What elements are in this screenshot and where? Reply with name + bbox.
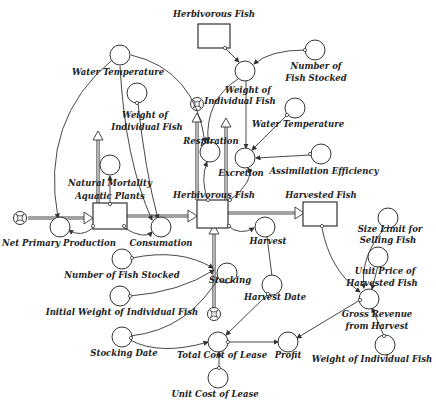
label-stocking-date: Stocking Date (90, 348, 158, 358)
stock-herbivorous-fish[interactable] (197, 200, 228, 228)
label-herbivorous-fish: Herbivorous Fish (172, 190, 255, 200)
converter-unit-price[interactable] (368, 247, 388, 267)
label-natural-mortality: Natural Mortality (67, 178, 153, 188)
converter-natural-mortality[interactable] (100, 155, 120, 175)
label-unit-price-1: Unit Price of (355, 266, 417, 276)
label-harvest: Harvest (248, 236, 286, 246)
converter-weight-individual-fish-top[interactable] (235, 61, 255, 81)
stock-aquatic-plants[interactable] (93, 203, 127, 229)
cloud-source-icon (14, 212, 27, 225)
converter-unit-cost-of-lease[interactable] (208, 368, 228, 388)
stock-harvested-fish[interactable] (303, 202, 337, 226)
converter-weight-individual-fish-bottom[interactable] (375, 335, 395, 355)
label-excretion: Excretion (217, 168, 264, 178)
converter-excretion[interactable] (235, 148, 255, 168)
label-weight-individual-fish-left-2: Individual Fish (110, 122, 183, 132)
label-number-fish-stocked-bottom: Number of Fish Stocked (63, 270, 179, 280)
converter-initial-weight[interactable] (110, 286, 130, 306)
label-water-temperature-1: Water Temperature (72, 67, 165, 77)
converter-consumation[interactable] (151, 217, 171, 237)
label-aquatic-plants: Aquatic Plants (74, 191, 145, 201)
label-assimilation-efficiency: Assimilation Efficiency (268, 166, 379, 176)
label-initial-weight: Initial Weight of Individual Fish (45, 307, 199, 317)
label-herbivorous-fish-top: Herbivorous Fish (172, 9, 255, 19)
cloud-sink-respiration-icon (191, 98, 204, 111)
converter-assimilation-efficiency[interactable] (311, 144, 331, 164)
converter-net-primary-production[interactable] (50, 217, 70, 237)
converter-weight-individual-fish-left[interactable] (127, 83, 147, 103)
label-stocking: Stocking (209, 275, 251, 285)
label-weight-individual-fish-left-1: Weight of (122, 110, 169, 120)
label-water-temperature-2: Water Temperature (252, 119, 345, 129)
stock-herbivorous-fish-top[interactable] (198, 24, 230, 48)
label-weight-individual-fish-top-2: Individual Fish (203, 96, 276, 106)
label-weight-individual-fish-bottom: Weight of Individual Fish (312, 354, 432, 364)
label-profit: Profit (274, 350, 302, 360)
converter-stocking-date[interactable] (112, 327, 132, 347)
converter-number-fish-stocked-top[interactable] (305, 40, 325, 60)
label-number-fish-stocked-top-1: Number of (289, 61, 342, 71)
label-harvested-fish: Harvested Fish (284, 190, 357, 200)
cloud-source-stocking-icon (208, 308, 221, 321)
label-unit-cost-of-lease: Unit Cost of Lease (171, 389, 259, 399)
label-net-primary-production: Net Primary Production (1, 238, 116, 248)
label-gross-revenue-2: from Harvest (345, 321, 409, 331)
label-weight-individual-fish-top-1: Weight of (225, 85, 272, 95)
stock-flow-diagram: Herbivorous Fish Water Temperature Weigh… (0, 0, 436, 408)
flow-pipe-respiration (192, 113, 202, 200)
converter-gross-revenue[interactable] (359, 289, 379, 309)
converter-water-temperature-1[interactable] (110, 45, 130, 65)
converter-harvest[interactable] (255, 217, 275, 237)
label-total-cost-of-lease: Total Cost of Lease (177, 350, 268, 360)
converter-total-cost-of-lease[interactable] (208, 332, 228, 352)
converter-number-fish-stocked-bottom[interactable] (112, 249, 132, 269)
label-unit-price-2: Harvested Fish (345, 278, 418, 288)
label-number-fish-stocked-top-2: Fish Stocked (284, 73, 346, 83)
converter-profit[interactable] (278, 332, 298, 352)
label-gross-revenue-1: Gross Revenue (342, 309, 413, 319)
flow-pipe-excretion (221, 118, 231, 200)
label-size-limit-2: Selling Fish (360, 235, 417, 245)
label-consumation: Consumation (129, 238, 192, 248)
label-harvest-date: Harvest Date (243, 292, 307, 302)
label-size-limit-1: Size Limit for (358, 224, 423, 234)
label-respiration: Respiration (182, 136, 238, 146)
